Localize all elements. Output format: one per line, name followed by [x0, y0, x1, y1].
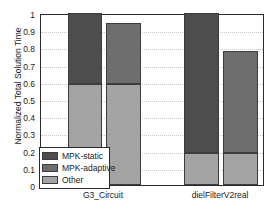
legend-item-other[interactable]: Other: [42, 174, 106, 186]
bar-segment-mpk-adaptive[interactable]: [106, 23, 141, 84]
legend-swatch-icon: [42, 176, 58, 184]
y-tick-label: 0.8: [5, 45, 35, 53]
y-tick-label: 0.4: [5, 114, 35, 122]
legend-label: MPK-static: [62, 152, 103, 161]
bar-g3circuit-mpk-adaptive[interactable]: [106, 23, 141, 186]
y-tick-label: 0.9: [5, 28, 35, 36]
y-tick-label: 0.3: [5, 131, 35, 139]
y-tick-label: 0.2: [5, 149, 35, 157]
y-tick-label: 0.6: [5, 80, 35, 88]
x-tick-label-g3circuit: G3_Circuit: [83, 190, 123, 200]
bar-segment-other[interactable]: [184, 153, 219, 185]
y-tick-label: 0.1: [5, 166, 35, 174]
legend-label: Other: [62, 176, 83, 185]
legend-item-mpk-static[interactable]: MPK-static: [42, 150, 106, 162]
y-tick-label: 0: [5, 183, 35, 191]
legend-label: MPK-adaptive: [62, 164, 115, 173]
bar-segment-mpk-static[interactable]: [184, 13, 219, 153]
bar-segment-mpk-static[interactable]: [68, 13, 102, 84]
legend-swatch-icon: [42, 152, 58, 160]
legend-item-mpk-adaptive[interactable]: MPK-adaptive: [42, 162, 106, 174]
y-tick-label: 0.5: [5, 97, 35, 105]
chart-container: Normalized Total Solution Time 1 0.9 0.8…: [0, 0, 278, 209]
bar-dielfilterv2real-mpk-static[interactable]: [184, 13, 219, 185]
x-tick-label-dielfilterv2real: dielFilterV2real: [192, 190, 249, 200]
y-tick-label: 1: [5, 11, 35, 19]
legend-swatch-icon: [42, 164, 58, 172]
legend: MPK-static MPK-adaptive Other: [39, 147, 110, 189]
bar-segment-other[interactable]: [223, 153, 258, 185]
bar-segment-mpk-adaptive[interactable]: [223, 51, 258, 153]
bar-dielfilterv2real-mpk-adaptive[interactable]: [223, 51, 258, 185]
y-tick-label: 0.7: [5, 63, 35, 71]
